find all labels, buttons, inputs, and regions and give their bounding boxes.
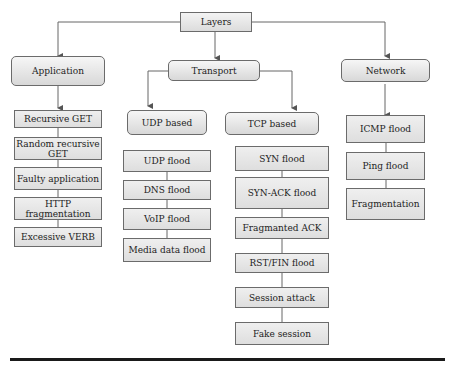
udp-based-label: UDP based [142, 118, 193, 128]
attack-label: Excessive VERB [21, 232, 95, 242]
attack-recursive-get: Recursive GET [14, 110, 102, 128]
transport-label: Transport [191, 66, 236, 76]
attack-label: Fragmentation [351, 199, 419, 209]
attack-label: Random recursive GET [15, 139, 101, 159]
attack-label: SYN flood [259, 154, 304, 164]
attack-label: DNS flood [144, 185, 191, 195]
attack-fake-session: Fake session [235, 322, 329, 345]
tcp-based-node: TCP based [225, 112, 319, 135]
attack-label: Recursive GET [24, 114, 92, 124]
attack-random-recursive-get: Random recursive GET [14, 137, 102, 160]
network-label: Network [366, 66, 406, 76]
attack-label: RST/FIN flood [249, 258, 314, 268]
attack-label: SYN-ACK flood [248, 188, 317, 198]
layers-label: Layers [201, 17, 232, 27]
attack-excessive-verb: Excessive VERB [14, 227, 102, 247]
attack-label: Faulty application [17, 174, 99, 184]
attack-syn-flood: SYN flood [235, 146, 329, 171]
attack-http-fragmentation: HTTP fragmentation [14, 197, 102, 220]
attack-rst-fin-flood: RST/FIN flood [235, 253, 329, 273]
attack-fragmentation: Fragmentation [346, 188, 425, 220]
network-node: Network [341, 59, 430, 82]
layers-root-node: Layers [180, 12, 252, 32]
transport-node: Transport [168, 60, 260, 81]
attack-syn-ack-flood: SYN-ACK flood [235, 177, 329, 209]
bottom-rule-divider [10, 358, 445, 361]
attack-label: Ping flood [363, 161, 409, 171]
attack-label: HTTP fragmentation [15, 199, 101, 219]
application-label: Application [32, 66, 84, 76]
attack-faulty-application: Faulty application [14, 167, 102, 190]
attack-icmp-flood: ICMP flood [346, 115, 425, 143]
attack-session-attack: Session attack [235, 287, 329, 308]
attack-media-data-flood: Media data flood [123, 238, 211, 262]
attack-voip-flood: VoIP flood [123, 208, 211, 230]
udp-based-node: UDP based [127, 110, 207, 135]
attack-label: UDP flood [144, 156, 190, 166]
attack-label: Media data flood [129, 245, 206, 255]
attack-udp-flood: UDP flood [123, 150, 211, 172]
attack-label: Session attack [249, 293, 315, 303]
application-node: Application [11, 56, 105, 86]
tcp-based-label: TCP based [248, 119, 297, 129]
attack-label: Fake session [253, 329, 311, 339]
attack-label: VoIP flood [144, 214, 190, 224]
attack-label: ICMP flood [360, 124, 411, 134]
attack-label: Fragmanted ACK [242, 223, 321, 233]
attack-dns-flood: DNS flood [123, 180, 211, 200]
attack-fragmanted-ack: Fragmanted ACK [235, 217, 329, 239]
attack-ping-flood: Ping flood [346, 152, 425, 180]
